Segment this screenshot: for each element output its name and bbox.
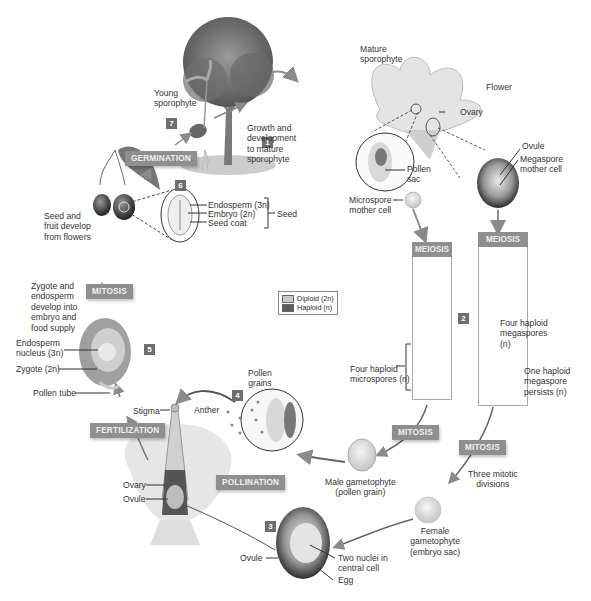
label-line: sporophyte (360, 54, 403, 64)
label-line: from flowers (44, 232, 91, 242)
meiosis-label-right: MEIOSIS (478, 232, 528, 247)
step-number-2: 2 (458, 313, 469, 324)
label-line: food supply (31, 323, 77, 333)
label-line: microspores (n) (350, 374, 410, 384)
label-mature-sporophyte: Mature sporophyte (360, 44, 403, 65)
microspore-mother-cell (405, 192, 421, 208)
label-line: Three mitotic (468, 469, 518, 479)
step-number-3: 3 (265, 521, 276, 532)
label-line: nucleus (3n) (16, 348, 63, 358)
process-mitosis-female: MITOSIS (459, 440, 506, 455)
female-gametophyte-illustration (415, 497, 441, 523)
label-female-gametophyte: Female gametophyte (embryo sac) (410, 526, 460, 557)
process-fertilization: FERTILIZATION (90, 423, 165, 438)
label-line: sporophyte (247, 154, 296, 164)
label-microspore-mother-cell: Microspore mother cell (349, 195, 392, 216)
label-three-mitotic-divisions: Three mitotic divisions (468, 469, 518, 490)
label-ovule-step3: Ovule (240, 553, 262, 563)
process-mitosis-male: MITOSIS (392, 425, 439, 440)
ovule-megaspore-illustration (477, 158, 519, 208)
process-germination: GERMINATION (125, 151, 197, 166)
step-number-4: 4 (232, 390, 243, 401)
label-seed-coat: Seed coat (208, 218, 247, 228)
label-flower: Flower (486, 82, 512, 92)
label-growth-development: Growth and development to mature sporoph… (247, 123, 296, 165)
label-two-nuclei: Two nuclei in central cell (338, 553, 388, 574)
label-stigma: Stigma (133, 406, 160, 416)
label-pollen-tube: Pollen tube (33, 388, 76, 398)
label-four-haploid-microspores: Four haploid microspores (n) (350, 364, 410, 385)
label-line: (embryo sac) (410, 547, 460, 557)
label-line: central cell (338, 563, 388, 573)
label-seed: Seed (277, 209, 297, 219)
label-line: gametophyte (410, 536, 460, 546)
label-line: (n) (500, 339, 548, 349)
label-line: Mature (360, 44, 403, 54)
step-number-7: 7 (166, 118, 177, 129)
label-megaspore-mother-cell: Megaspore mother cell (520, 154, 563, 175)
label-line: Two nuclei in (338, 553, 388, 563)
label-line: Endosperm (16, 338, 63, 348)
legend: Diploid (2n) Haploid (n) (278, 291, 338, 315)
label-line: embryo and (31, 312, 77, 322)
legend-label-haploid: Haploid (n) (297, 303, 332, 312)
label-line: Seed and (44, 211, 91, 221)
label-line: Four haploid (350, 364, 410, 374)
pollen-grain-illustration (348, 439, 376, 471)
label-ovule-bottom: Ovule (123, 494, 145, 504)
label-seed-fruit: Seed and fruit develop from flowers (44, 211, 91, 242)
meiosis-box-microspores: MEIOSIS (412, 242, 452, 400)
life-cycle-diagram: Diploid (2n) Haploid (n) MEIOSIS MEIOSIS… (0, 0, 591, 601)
label-line: grains (248, 378, 272, 388)
legend-swatch-haploid (282, 304, 294, 312)
label-ovary-top: Ovary (460, 107, 483, 117)
label-ovule-top: Ovule (522, 141, 544, 151)
label-line: divisions (468, 479, 518, 489)
label-male-gametophyte: Male gametophyte (pollen grain) (325, 477, 396, 498)
label-line: to mature (247, 144, 296, 154)
label-line: megaspore (524, 376, 570, 386)
label-line: One haploid (524, 366, 570, 376)
legend-label-diploid: Diploid (2n) (297, 294, 334, 303)
step-number-6: 6 (175, 180, 186, 191)
label-egg: Egg (338, 575, 353, 585)
legend-item-haploid: Haploid (n) (282, 303, 334, 312)
label-line: Growth and (247, 123, 296, 133)
label-line: development (247, 133, 296, 143)
label-ovary-bottom: Ovary (123, 480, 146, 490)
label-pollen-grains: Pollen grains (248, 368, 272, 389)
label-one-haploid-megaspore: One haploid megaspore persists (n) (524, 366, 570, 397)
label-line: mother cell (349, 205, 392, 215)
label-line: Pollen (407, 164, 431, 174)
label-zygote-endosperm-develop: Zygote and endosperm develop into embryo… (31, 281, 77, 333)
label-line: Young (154, 88, 197, 98)
meiosis-label-left: MEIOSIS (412, 242, 452, 257)
process-pollination: POLLINATION (216, 475, 285, 490)
label-line: megaspores (500, 328, 548, 338)
label-line: Megaspore (520, 154, 563, 164)
legend-item-diploid: Diploid (2n) (282, 294, 334, 303)
label-line: Zygote and (31, 281, 77, 291)
label-line: Microspore (349, 195, 392, 205)
label-line: (pollen grain) (325, 487, 396, 497)
label-line: sporophyte (154, 98, 197, 108)
label-young-sporophyte: Young sporophyte (154, 88, 197, 109)
fertilized-ovule-illustration (79, 318, 131, 388)
label-endosperm-nucleus: Endosperm nucleus (3n) (16, 338, 63, 359)
legend-swatch-diploid (282, 295, 294, 303)
label-line: fruit develop (44, 221, 91, 231)
label-pollen-sac: Pollen sac (407, 164, 431, 185)
label-line: sac (407, 174, 431, 184)
label-line: mother cell (520, 164, 563, 174)
label-line: Male gametophyte (325, 477, 396, 487)
label-line: Pollen (248, 368, 272, 378)
label-line: develop into (31, 302, 77, 312)
label-four-haploid-megaspores: Four haploid megaspores (n) (500, 318, 548, 349)
label-line: endosperm (31, 291, 77, 301)
label-line: persists (n) (524, 387, 570, 397)
step-number-5: 5 (144, 344, 155, 355)
label-line: Four haploid (500, 318, 548, 328)
label-anther: Anther (194, 405, 219, 415)
label-line: Female (410, 526, 460, 536)
label-zygote: Zygote (2n) (16, 364, 60, 374)
